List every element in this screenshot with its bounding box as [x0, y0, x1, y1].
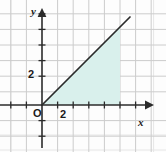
- y-axis-label: y: [31, 6, 36, 17]
- coordinate-graph-figure: y x O 2 2: [0, 0, 166, 152]
- x-axis-tick-label-2: 2: [60, 109, 66, 120]
- y-axis-tick-label-2: 2: [28, 69, 34, 80]
- x-axis-label: x: [138, 117, 144, 128]
- plot-canvas: [0, 0, 166, 152]
- origin-label: O: [33, 108, 42, 119]
